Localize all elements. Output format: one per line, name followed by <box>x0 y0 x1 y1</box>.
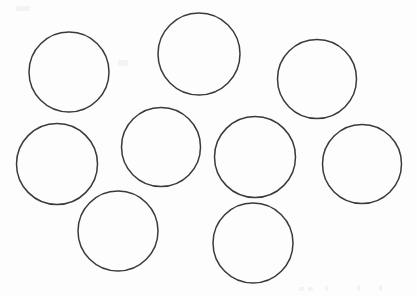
circle-top-left <box>29 32 109 112</box>
circle-middle-left <box>17 124 98 205</box>
circle-far-right <box>323 125 402 204</box>
circle-bottom-left <box>78 191 158 271</box>
circle-middle-center <box>122 108 201 187</box>
circle-top-right <box>278 40 357 119</box>
circles-shape-layer <box>0 0 417 296</box>
circle-top-center <box>158 13 240 95</box>
circle-middle-right <box>215 117 296 198</box>
diagram-canvas <box>0 0 417 296</box>
circle-bottom-center <box>213 203 293 283</box>
